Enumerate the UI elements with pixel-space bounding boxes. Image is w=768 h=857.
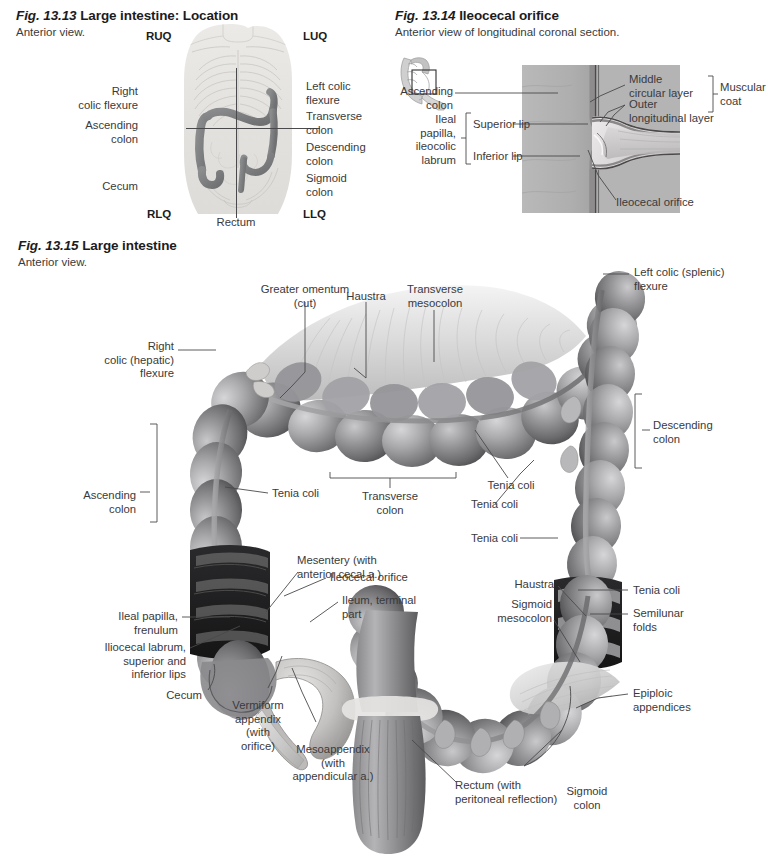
fig-13-15-label-ileocecal-orifice: Ileocecal orifice	[330, 571, 440, 585]
fig-13-13-label-rectum: Rectum	[198, 216, 274, 230]
fig-13-13-label-sigmoid-colon: Sigmoid colon	[306, 172, 396, 199]
fig-13-13-title-text: Large intestine: Location	[80, 8, 238, 23]
fig-13-15-label-ascending-colon: Ascending colon	[38, 489, 136, 516]
fig-13-15-label-mesoappendix: Mesoappendix (with appendicular a.)	[263, 743, 403, 784]
fig-13-15-label-epiploic-appendices: Epiploic appendices	[633, 687, 723, 714]
fig-13-14-label-inferior-lip: Inferior lip	[473, 150, 553, 164]
fig-13-15-label-tenia-coli-right-upper: Tenia coli	[471, 498, 537, 512]
quadrant-ruq: RUQ	[146, 30, 172, 42]
fig-13-13-number: Fig. 13.13	[16, 8, 77, 23]
fig-13-14-label-superior-lip: Superior lip	[473, 118, 553, 132]
fig-13-15-label-descending-colon: Descending colon	[653, 419, 745, 446]
fig-13-15-label-tenia-coli-left: Tenia coli	[272, 487, 342, 501]
fig-13-13-label-ascending-colon: Ascending colon	[40, 119, 138, 146]
fig-13-14-subtitle: Anterior view of longitudinal coronal se…	[395, 25, 725, 39]
quadrant-vertical-axis	[236, 68, 237, 218]
fig-13-15-artwork	[150, 250, 670, 855]
fig-13-15-number: Fig. 13.15	[18, 238, 79, 253]
quadrant-horizontal-axis	[186, 128, 320, 129]
fig-13-15-label-left-colic-splenic-flexure: Left colic (splenic) flexure	[634, 266, 762, 293]
fig-13-13-artwork	[168, 22, 308, 222]
fig-13-15-label-tenia-coli-right-lower: Tenia coli	[633, 584, 701, 598]
fig-13-15-label-sigmoid-mesocolon: Sigmoid mesocolon	[466, 598, 552, 625]
fig-13-15-label-haustra-top: Haustra	[330, 290, 402, 304]
fig-13-14-number: Fig. 13.14	[395, 8, 456, 23]
fig-13-15-label-tenia-coli-center: Tenia coli	[478, 479, 544, 493]
fig-13-15-label-tenia-coli-right-mid: Tenia coli	[471, 532, 537, 546]
fig-13-14-label-ileal-papilla: Ileal papilla, ileocolic labrum	[382, 113, 456, 167]
fig-13-15-label-transverse-mesocolon: Transverse mesocolon	[394, 283, 476, 310]
fig-13-14-label-muscular-coat: Muscular coat	[720, 81, 768, 108]
quadrant-luq: LUQ	[303, 30, 327, 42]
fig-13-15-label-transverse-colon: Transverse colon	[353, 490, 427, 517]
fig-13-15-label-iliocecal-labrum: Iliocecal labrum, superior and inferior …	[68, 641, 186, 682]
fig-13-13-label-cecum: Cecum	[40, 180, 138, 194]
fig-13-14-label-ileocecal-orifice: Ileocecal orifice	[616, 196, 726, 210]
fig-13-14-label-middle-circular-layer: Middle circular layer	[629, 73, 709, 100]
fig-13-13-label-right-colic-flexure: Right colic flexure	[40, 85, 138, 112]
quadrant-llq: LLQ	[303, 208, 326, 220]
fig-13-14-label-outer-longitudinal-layer: Outer longitudinal layer	[629, 98, 715, 125]
fig-13-14-heading: Fig. 13.14 Ileocecal orifice Anterior vi…	[395, 8, 725, 39]
fig-13-15-label-cecum: Cecum	[124, 689, 202, 703]
fig-13-15-label-rectum-peritoneal-reflection: Rectum (with peritoneal reflection)	[455, 779, 605, 806]
quadrant-rlq: RLQ	[147, 208, 171, 220]
fig-13-14-label-ascending-colon: Ascending colon	[375, 85, 453, 112]
fig-13-14-title-text: Ileocecal orifice	[459, 8, 559, 23]
descending-colon-haustra	[565, 266, 651, 594]
fig-13-15-label-semilunar-folds: Semilunar folds	[633, 607, 717, 634]
fig-13-15-label-ileum-terminal-part: Ileum, terminal part	[342, 594, 442, 621]
fig-13-15-label-right-colic-hepatic-flexure: Right colic (hepatic) flexure	[66, 340, 174, 381]
fig-13-15-label-ileal-papilla-frenulum: Ileal papilla, frenulum	[74, 610, 178, 637]
fig-13-15-label-haustra-lower: Haustra	[486, 578, 554, 592]
fig-13-14-title: Fig. 13.14 Ileocecal orifice	[395, 8, 725, 24]
